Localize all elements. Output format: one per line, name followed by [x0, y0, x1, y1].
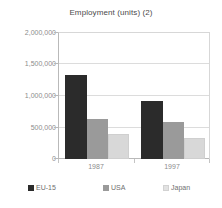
bar-usa-1997[interactable]	[163, 122, 184, 160]
chart-title: Employment (units) (2)	[0, 8, 222, 17]
legend-label-japan: Japan	[171, 184, 190, 191]
legend-label-usa: USA	[111, 184, 125, 191]
legend-item-usa[interactable]: USA	[103, 184, 125, 191]
x-axis-label-1987: 1987	[58, 163, 134, 170]
legend-item-eu-15[interactable]: EU-15	[28, 184, 56, 191]
y-axis-label-0: 0	[4, 155, 56, 162]
bar-usa-1987[interactable]	[87, 119, 108, 159]
bar-eu-15-1987[interactable]	[65, 75, 87, 160]
legend-swatch-usa-icon	[103, 185, 109, 191]
plot-area	[58, 32, 210, 159]
bar-japan-1987[interactable]	[108, 134, 129, 159]
legend-swatch-eu-15-icon	[28, 185, 34, 191]
bar-eu-15-1997[interactable]	[141, 101, 163, 159]
y-axis-label-2000000: 2,000,000	[4, 29, 56, 36]
y-axis-label-1500000: 1,500,000	[4, 60, 56, 67]
y-axis-label-500000: 500,000	[4, 124, 56, 131]
chart-legend: EU-15 USA Japan	[0, 184, 222, 198]
legend-swatch-japan-icon	[163, 185, 169, 191]
legend-label-eu-15: EU-15	[36, 184, 56, 191]
legend-item-japan[interactable]: Japan	[163, 184, 190, 191]
employment-bar-chart: Employment (units) (2) 2,000,000 1,500,0…	[0, 0, 222, 208]
gridline-1500000	[59, 63, 209, 64]
bar-japan-1997[interactable]	[184, 138, 205, 159]
x-axis-label-1997: 1997	[134, 163, 210, 170]
y-axis-label-1000000: 1,000,000	[4, 92, 56, 99]
